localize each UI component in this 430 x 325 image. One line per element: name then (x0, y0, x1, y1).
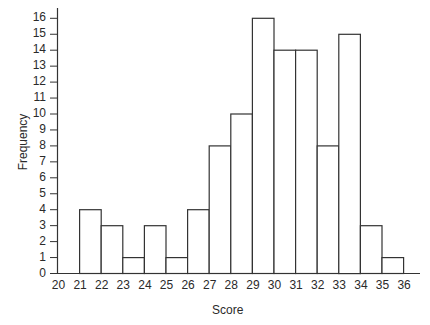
y-axis-title: Frequency (16, 107, 30, 177)
bars-group (80, 18, 404, 273)
bar-28 (231, 114, 253, 274)
x-tick-label: 22 (91, 278, 113, 292)
bar-21 (80, 210, 102, 274)
x-tick-label: 30 (264, 278, 286, 292)
bar-29 (252, 18, 274, 273)
x-tick-label: 25 (156, 278, 178, 292)
x-tick-label: 27 (199, 278, 221, 292)
x-axis-title: Score (212, 303, 243, 317)
y-tick-label: 1 (26, 250, 46, 264)
bar-24 (144, 226, 166, 274)
x-tick-label: 24 (134, 278, 156, 292)
y-tick-label: 0 (26, 266, 46, 280)
histogram-chart (0, 0, 430, 325)
x-tick-label: 21 (69, 278, 91, 292)
y-tick-label: 13 (26, 58, 46, 72)
x-tick-label: 29 (242, 278, 264, 292)
y-tick-label: 16 (26, 10, 46, 24)
x-tick-label: 23 (112, 278, 134, 292)
x-tick-label: 20 (48, 278, 70, 292)
x-tick-label: 34 (350, 278, 372, 292)
y-tick-label: 5 (26, 186, 46, 200)
y-ticks-group (50, 18, 58, 273)
bar-35 (382, 258, 404, 274)
y-tick-label: 14 (26, 42, 46, 56)
x-tick-label: 36 (393, 278, 415, 292)
x-tick-label: 33 (328, 278, 350, 292)
bar-31 (296, 50, 318, 273)
bar-34 (360, 226, 382, 274)
bar-23 (123, 258, 145, 274)
bar-22 (101, 226, 123, 274)
bar-26 (188, 210, 210, 274)
x-tick-label: 31 (285, 278, 307, 292)
x-tick-label: 28 (220, 278, 242, 292)
x-tick-label: 32 (307, 278, 329, 292)
y-tick-label: 15 (26, 26, 46, 40)
x-tick-label: 26 (177, 278, 199, 292)
y-tick-label: 2 (26, 234, 46, 248)
bar-33 (339, 34, 361, 273)
y-tick-label: 3 (26, 218, 46, 232)
bar-25 (166, 258, 188, 274)
x-tick-label: 35 (372, 278, 394, 292)
y-tick-label: 4 (26, 202, 46, 216)
bar-27 (209, 146, 231, 274)
bar-30 (274, 50, 296, 273)
y-tick-label: 12 (26, 74, 46, 88)
y-tick-label: 11 (26, 90, 46, 104)
bar-32 (317, 146, 339, 274)
